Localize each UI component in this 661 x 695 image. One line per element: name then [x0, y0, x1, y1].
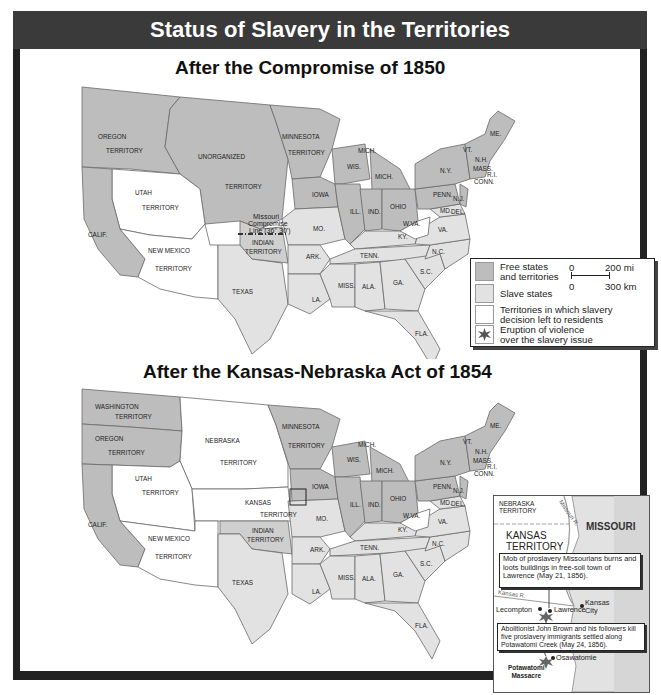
legend-slave: Slave states — [475, 284, 552, 303]
svg-text:ME.: ME. — [490, 130, 502, 137]
svg-text:LA.: LA. — [312, 588, 322, 595]
svg-text:WIS.: WIS. — [347, 163, 361, 170]
svg-text:IND.: IND. — [368, 501, 381, 508]
svg-text:R.I.: R.I. — [487, 171, 497, 178]
svg-text:R.I.: R.I. — [487, 463, 497, 470]
inset-osawatomie-label: Osawatomie — [556, 653, 597, 662]
svg-text:NEBRASKA: NEBRASKA — [205, 437, 241, 444]
figure-body: After the Compromise of 1850 — [20, 49, 640, 671]
svg-text:ALA.: ALA. — [362, 283, 376, 290]
svg-text:N.H.: N.H. — [475, 448, 488, 455]
svg-text:GA.: GA. — [393, 571, 404, 578]
svg-text:TERRITORY: TERRITORY — [220, 459, 257, 466]
map2-florida — [365, 603, 440, 659]
svg-text:VA.: VA. — [438, 226, 448, 233]
legend-violence: Eruption of violenceover the slavery iss… — [475, 325, 593, 345]
svg-text:IOWA: IOWA — [312, 483, 330, 490]
svg-text:OHIO: OHIO — [390, 495, 406, 502]
svg-text:MICH.: MICH. — [375, 173, 393, 180]
svg-text:Line (36° 30'): Line (36° 30') — [249, 227, 291, 235]
svg-text:TERRITORY: TERRITORY — [142, 489, 179, 496]
svg-text:MICH.: MICH. — [358, 147, 376, 154]
svg-text:VT.: VT. — [463, 438, 472, 445]
svg-text:OREGON: OREGON — [95, 435, 124, 442]
svg-text:UTAH: UTAH — [135, 189, 152, 196]
svg-text:INDIAN: INDIAN — [252, 527, 274, 534]
svg-text:TERRITORY: TERRITORY — [155, 553, 192, 560]
violence-burst-icon — [475, 325, 494, 344]
svg-text:TEXAS: TEXAS — [232, 579, 253, 586]
inset-kansas-city-label: KansasCity — [585, 599, 609, 615]
svg-text:UNORGANIZED: UNORGANIZED — [198, 153, 246, 160]
svg-text:N.C.: N.C. — [432, 540, 445, 547]
svg-text:TERRITORY: TERRITORY — [247, 536, 284, 543]
svg-text:TERRITORY: TERRITORY — [288, 149, 325, 156]
svg-text:TERRITORY: TERRITORY — [108, 449, 145, 456]
figure-frame: Status of Slavery in the Territories Aft… — [13, 11, 647, 680]
svg-text:CONN.: CONN. — [474, 470, 495, 477]
svg-text:TERRITORY: TERRITORY — [245, 248, 282, 255]
svg-text:MINNESOTA: MINNESOTA — [282, 133, 320, 140]
svg-text:Missouri: Missouri — [253, 213, 280, 220]
svg-text:S.C.: S.C. — [420, 268, 433, 275]
svg-text:FLA.: FLA. — [415, 330, 429, 337]
potawatomi-massacre-callout: Abolitionist John Brown and his follower… — [497, 623, 645, 651]
svg-text:NEW MEXICO: NEW MEXICO — [148, 247, 190, 254]
svg-text:TEXAS: TEXAS — [232, 288, 253, 295]
svg-text:MICH.: MICH. — [376, 467, 394, 474]
svg-text:OHIO: OHIO — [390, 203, 406, 210]
svg-text:N.Y.: N.Y. — [440, 167, 452, 174]
svg-text:TERRITORY: TERRITORY — [225, 183, 262, 190]
scale-line — [571, 275, 609, 276]
legend-slave-swatch — [475, 284, 494, 303]
svg-text:DEL.: DEL. — [451, 208, 465, 215]
svg-text:TERRITORY: TERRITORY — [115, 413, 152, 420]
svg-text:TERRITORY: TERRITORY — [142, 204, 179, 211]
svg-text:CONN.: CONN. — [474, 178, 495, 185]
svg-text:N.J.: N.J. — [453, 195, 465, 202]
svg-text:VA.: VA. — [438, 518, 448, 525]
svg-text:CALIF.: CALIF. — [88, 521, 107, 528]
map1-oregon-territory — [82, 87, 180, 174]
svg-text:DEL.: DEL. — [451, 500, 465, 507]
svg-text:KY.: KY. — [398, 233, 408, 240]
svg-text:ILL.: ILL. — [350, 208, 361, 215]
svg-text:ARK.: ARK. — [310, 546, 325, 553]
svg-text:TERRITORY: TERRITORY — [260, 511, 297, 518]
svg-text:ALA.: ALA. — [362, 575, 376, 582]
svg-text:IND.: IND. — [368, 208, 381, 215]
svg-text:IOWA: IOWA — [312, 191, 330, 198]
legend-ps-swatch — [475, 305, 494, 324]
inset-massacre-label: PotawatomiMassacre — [508, 664, 544, 679]
svg-text:TENN.: TENN. — [360, 544, 379, 551]
svg-text:N.H.: N.H. — [475, 156, 488, 163]
legend-popular-sovereignty: Territories in which slaverydecision lef… — [475, 305, 613, 325]
svg-text:TERRITORY: TERRITORY — [288, 442, 325, 449]
inset-lawrence-label: Lawrence — [554, 605, 586, 614]
svg-text:W.VA.: W.VA. — [403, 512, 421, 519]
svg-text:NEW MEXICO: NEW MEXICO — [148, 535, 190, 542]
svg-text:KY.: KY. — [398, 526, 408, 533]
svg-text:FLA.: FLA. — [415, 622, 429, 629]
svg-text:PENN.: PENN. — [433, 191, 453, 198]
figure-title: Status of Slavery in the Territories — [150, 17, 510, 43]
map2-oregon-territory — [82, 424, 182, 467]
svg-text:WIS.: WIS. — [347, 456, 361, 463]
scale-bar: 0 200 mi 0 300 km — [569, 262, 649, 296]
figure-header: Status of Slavery in the Territories — [13, 11, 647, 49]
svg-text:ILL.: ILL. — [350, 501, 361, 508]
svg-text:PENN.: PENN. — [433, 483, 453, 490]
svg-text:TERRITORY: TERRITORY — [106, 147, 143, 154]
svg-text:OREGON: OREGON — [98, 133, 127, 140]
legend-free: Free statesand territories — [475, 262, 559, 282]
svg-text:MO.: MO. — [313, 225, 325, 232]
svg-text:MISS.: MISS. — [338, 282, 356, 289]
svg-text:KANSAS: KANSAS — [245, 499, 271, 506]
svg-text:S.C.: S.C. — [420, 560, 433, 567]
svg-text:GA.: GA. — [393, 279, 404, 286]
svg-text:ME.: ME. — [490, 422, 502, 429]
lawrence-sack-callout: Mob of proslavery Missourians burns and … — [499, 553, 641, 588]
svg-text:UTAH: UTAH — [135, 475, 152, 482]
kansas-inset-map: NEBRASKATERRITORY Missouri R. KANSASTERR… — [493, 495, 650, 693]
svg-text:MISS.: MISS. — [338, 574, 356, 581]
